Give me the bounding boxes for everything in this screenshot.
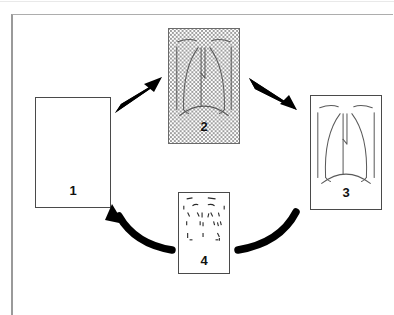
panel-3: 3 [310, 95, 382, 210]
panel-4: 4 [178, 192, 230, 274]
arrow-4-to-1 [105, 204, 172, 250]
top-scan-line [0, 1, 394, 2]
arrow-2-to-3 [249, 78, 297, 110]
arrow-3-to-4 [238, 212, 296, 250]
panel-1-label: 1 [36, 184, 110, 197]
panel-1: 1 [35, 97, 111, 208]
panel-4-label: 4 [179, 254, 229, 267]
panel-3-label: 3 [311, 186, 381, 199]
panel-2: 2 [168, 28, 240, 144]
panel-2-label: 2 [169, 120, 239, 133]
figure-root: 1 [0, 0, 394, 315]
arrow-1-to-2 [115, 77, 162, 113]
